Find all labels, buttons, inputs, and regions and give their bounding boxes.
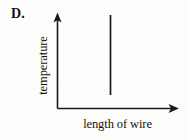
y-axis-title: temperature — [36, 18, 51, 114]
graph-panel-d: D. temperature length of wire — [0, 0, 188, 140]
x-axis-title: length of wire — [57, 117, 178, 132]
